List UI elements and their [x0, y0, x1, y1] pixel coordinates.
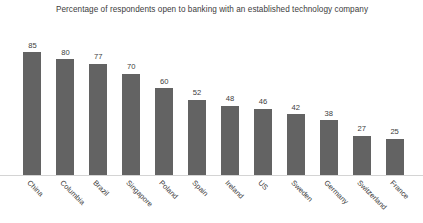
- bar-value-label: 27: [357, 124, 365, 133]
- x-axis-tick: Poland: [148, 177, 181, 223]
- x-axis-tick: US: [246, 177, 279, 223]
- x-axis-tick: Sweden: [279, 177, 312, 223]
- bar-value-label: 70: [127, 62, 135, 71]
- bar-group: 42: [279, 30, 312, 175]
- plot-area: 858077706052484642382725: [0, 30, 423, 175]
- x-axis-tick: Brazil: [82, 177, 115, 223]
- x-axis-labels: ChinaColumbiaBrazilSingaporePolandSpainI…: [16, 177, 411, 223]
- bar: [221, 106, 239, 175]
- bar-value-label: 52: [193, 88, 201, 97]
- bar-group: 27: [345, 30, 378, 175]
- bar: [89, 64, 107, 175]
- bar-value-label: 85: [28, 41, 36, 50]
- bar-value-label: 25: [390, 127, 398, 136]
- bar: [23, 52, 41, 175]
- bar: [122, 74, 140, 175]
- x-axis-tick-label: France: [388, 179, 410, 201]
- x-axis-tick: Germany: [312, 177, 345, 223]
- bar: [386, 139, 404, 175]
- x-axis-tick-label: Ireland: [223, 179, 245, 201]
- bar-group: 52: [181, 30, 214, 175]
- bar-chart: Percentage of respondents open to bankin…: [0, 0, 423, 223]
- bar: [353, 136, 371, 175]
- bar: [155, 88, 173, 175]
- bar-group: 60: [148, 30, 181, 175]
- bar-value-label: 42: [292, 103, 300, 112]
- x-axis-tick: Spain: [181, 177, 214, 223]
- bar-group: 25: [378, 30, 411, 175]
- bar: [56, 59, 74, 175]
- bar: [287, 114, 305, 175]
- x-axis-tick-label: Poland: [157, 179, 179, 201]
- bar-value-label: 46: [259, 97, 267, 106]
- bar-group: 38: [312, 30, 345, 175]
- bar: [320, 120, 338, 175]
- x-axis-tick: China: [16, 177, 49, 223]
- bar-group: 80: [49, 30, 82, 175]
- bar-group: 85: [16, 30, 49, 175]
- x-axis-tick-label: China: [26, 179, 45, 198]
- x-axis-tick: Columbia: [49, 177, 82, 223]
- x-axis-tick: Singapore: [115, 177, 148, 223]
- bar-value-label: 77: [94, 52, 102, 61]
- bar-group: 70: [115, 30, 148, 175]
- bar: [254, 109, 272, 176]
- x-axis-line: [0, 175, 423, 176]
- x-axis-tick-label: Brazil: [92, 179, 111, 198]
- bar-value-label: 38: [325, 109, 333, 118]
- x-axis-tick-label: Spain: [190, 179, 209, 198]
- bar-value-label: 60: [160, 77, 168, 86]
- bars-container: 858077706052484642382725: [16, 30, 411, 175]
- chart-title: Percentage of respondents open to bankin…: [52, 4, 372, 16]
- x-axis-tick-label: Sweden: [289, 179, 314, 204]
- bar-value-label: 48: [226, 94, 234, 103]
- x-axis-tick-label: US: [256, 179, 269, 192]
- bar-group: 77: [82, 30, 115, 175]
- bar-value-label: 80: [61, 48, 69, 57]
- bar: [188, 100, 206, 175]
- x-axis-tick: Switzerland: [345, 177, 378, 223]
- x-axis-tick: France: [378, 177, 411, 223]
- x-axis-tick: Ireland: [214, 177, 247, 223]
- bar-group: 48: [214, 30, 247, 175]
- bar-group: 46: [246, 30, 279, 175]
